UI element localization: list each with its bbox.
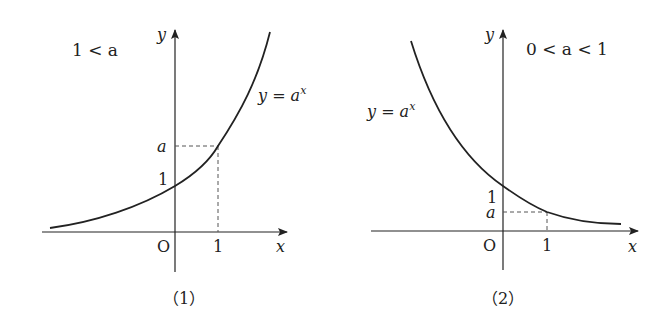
function-label: y = ax (257, 84, 307, 105)
panel-1: 1 < a y x O 1 1 a y = ax （1） (42, 25, 307, 308)
panel-caption: （1） (163, 289, 205, 308)
exponential-curve-increasing (50, 32, 270, 228)
origin-label: O (157, 237, 170, 256)
x-axis-label: x (628, 237, 637, 256)
exponential-curve-decreasing (411, 41, 621, 224)
y-axis-label: y (484, 25, 495, 44)
tick-y-a-label: a (157, 137, 167, 156)
tick-x-one-label: 1 (542, 236, 552, 255)
panel-2: 0 < a < 1 y x O 1 1 a y = ax （2） (366, 25, 638, 308)
tick-x-one-label: 1 (213, 237, 223, 256)
function-label: y = ax (366, 100, 416, 121)
x-axis-label: x (276, 237, 285, 256)
y-axis-label: y (156, 25, 167, 44)
tick-y-a-label: a (486, 203, 496, 222)
function-label-exponent: x (409, 100, 416, 113)
exponential-graphs-figure: 1 < a y x O 1 1 a y = ax （1） 0 < a < 1 y… (0, 0, 669, 332)
condition-label: 0 < a < 1 (526, 39, 608, 59)
panel-caption: （2） (482, 289, 524, 308)
tick-y-one-label: 1 (158, 170, 168, 189)
condition-label: 1 < a (72, 40, 118, 60)
function-label-base: y = a (366, 102, 409, 121)
origin-label: O (483, 236, 496, 255)
function-label-base: y = a (257, 86, 300, 105)
function-label-exponent: x (300, 84, 307, 97)
